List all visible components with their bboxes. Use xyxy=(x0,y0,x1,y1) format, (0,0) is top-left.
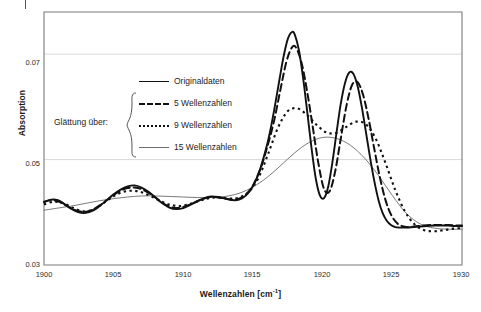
legend-group-brace xyxy=(126,92,138,158)
legend-swatch-solid-line xyxy=(137,75,171,87)
legend-label-15-wellenzahlen: 15 Wellenzahlen xyxy=(171,142,237,152)
legend-item-5-wellenzahlen: 5 Wellenzahlen xyxy=(137,92,287,114)
legend-label-9-wellenzahlen: 9 Wellenzahlen xyxy=(171,120,232,130)
legend-label-originaldaten: Originaldaten xyxy=(171,76,225,86)
legend-item-originaldaten: Originaldaten xyxy=(137,70,287,92)
legend-swatch-dotted-line xyxy=(137,119,171,131)
legend-group-label: Glättung über: xyxy=(54,117,108,127)
legend-swatch-dashed-line xyxy=(137,97,171,109)
legend-item-9-wellenzahlen: 9 Wellenzahlen xyxy=(137,114,287,136)
legend-item-15-wellenzahlen: 15 Wellenzahlen xyxy=(137,136,287,158)
legend-swatch-thin-line xyxy=(137,141,171,153)
legend-label-5-wellenzahlen: 5 Wellenzahlen xyxy=(171,98,232,108)
legend: Originaldaten 5 Wellenzahlen 9 Wellenzah… xyxy=(137,70,287,158)
chart-figure: Absorption 0.07 0.05 0.03 1900 1905 1910… xyxy=(0,0,481,312)
